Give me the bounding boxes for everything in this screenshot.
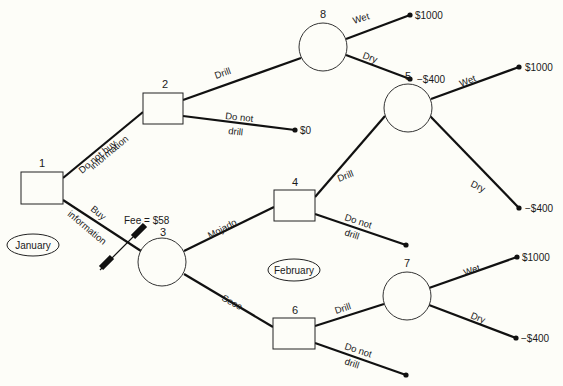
node-number-6: 6	[292, 304, 298, 316]
edge-n5-dry	[430, 116, 519, 208]
node-number-5: 5	[405, 70, 411, 82]
label-n6-drill: Drill	[333, 300, 352, 316]
decision-node-1	[21, 172, 63, 204]
node-number-3: 3	[160, 226, 166, 238]
fee-label: Fee = $58	[124, 215, 170, 226]
terminal-n5-wet	[516, 64, 521, 69]
chance-node-3	[138, 238, 186, 286]
node-number-8: 8	[320, 8, 326, 20]
label-n2-drill: Drill	[213, 65, 232, 81]
payoff-n5-wet: $1000	[525, 62, 553, 73]
edge-n4-drill	[315, 116, 385, 197]
label-seco: Seco	[220, 292, 244, 312]
terminal-n5-dry	[516, 205, 521, 210]
decision-node-4	[274, 190, 315, 221]
decision-tree-diagram: 1 2 8 3 4 5 6 7 Do not buy information B…	[0, 0, 563, 386]
payoff-n8-dry: −$400	[417, 74, 446, 85]
terminal-n6-do-not-drill	[403, 372, 408, 377]
label-n5-wet: Wet	[458, 72, 478, 89]
decision-node-2	[143, 93, 183, 124]
payoff-n2-do-not-drill: $0	[300, 125, 312, 136]
node-number-2: 2	[162, 78, 168, 90]
edge-n8-dry	[346, 55, 410, 79]
label-n5-dry: Dry	[469, 178, 487, 194]
terminal-n2-do-not-drill	[292, 127, 297, 132]
period-january: January	[7, 234, 59, 256]
period-february: February	[268, 259, 320, 281]
period-january-label: January	[15, 240, 51, 251]
node-number-4: 4	[292, 176, 298, 188]
edge-n2-drill	[183, 58, 301, 100]
chance-node-7	[383, 272, 431, 320]
node-number-7: 7	[404, 257, 410, 269]
node-number-1: 1	[39, 157, 45, 169]
terminal-n4-do-not-drill	[403, 242, 408, 247]
chance-node-8	[299, 23, 347, 71]
payoff-n7-wet: $1000	[522, 252, 550, 263]
terminal-n8-wet	[407, 12, 412, 17]
label-n7-dry: Dry	[469, 310, 487, 326]
payoff-n5-dry: −$400	[525, 203, 554, 214]
payoff-n7-dry: −$400	[521, 333, 550, 344]
label-mojado: Mojado	[206, 216, 239, 240]
terminal-n7-wet	[514, 254, 519, 259]
period-february-label: February	[274, 265, 314, 276]
label-n8-wet: Wet	[351, 10, 371, 26]
label-n7-wet: Wet	[462, 262, 482, 278]
chance-node-5	[384, 84, 432, 132]
label-n2-drill-2: drill	[228, 125, 244, 137]
decision-node-6	[273, 318, 315, 349]
terminal-n7-dry	[513, 335, 518, 340]
payoff-n8-wet: $1000	[415, 10, 443, 21]
